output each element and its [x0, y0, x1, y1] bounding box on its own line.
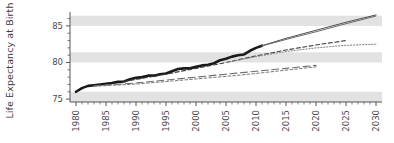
plot-area: 7580851980198519901995200020052010201520… [0, 0, 394, 143]
x-tick-label: 1990 [131, 110, 141, 132]
y-tick-label: 80 [52, 57, 63, 67]
grid-band [70, 52, 382, 62]
x-tick-label: 1985 [101, 110, 111, 132]
x-tick-label: 1980 [71, 110, 81, 132]
x-tick-label: 1995 [161, 110, 171, 132]
x-tick-label: 2025 [341, 110, 351, 132]
x-tick-label: 2005 [221, 110, 231, 132]
x-tick-label: 2015 [281, 110, 291, 132]
x-tick-label: 2030 [371, 110, 381, 132]
x-tick-label: 2000 [191, 110, 201, 132]
grid-band [70, 92, 382, 102]
tick-labels-group: 7580851980198519901995200020052010201520… [52, 21, 381, 132]
data-series-line [94, 65, 316, 85]
life-expectancy-chart: Life Expectancy at Birth 758085198019851… [0, 0, 394, 143]
x-tick-label: 2010 [251, 110, 261, 132]
x-tick-label: 2020 [311, 110, 321, 132]
y-tick-label: 75 [52, 94, 63, 104]
y-tick-label: 85 [52, 21, 63, 31]
grid-band [70, 16, 382, 26]
